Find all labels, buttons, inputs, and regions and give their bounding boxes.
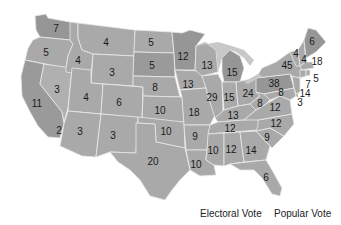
state-value-DE: 3: [297, 98, 303, 108]
state-NM[interactable]: [96, 114, 138, 157]
state-value-AR: 9: [192, 132, 198, 142]
state-value-MT: 4: [103, 38, 109, 48]
state-value-NV: 3: [54, 85, 60, 95]
state-value-RI: 5: [313, 74, 319, 84]
state-value-VT: 4: [293, 49, 299, 59]
state-value-ID: 4: [75, 56, 81, 66]
state-value-TX: 20: [147, 157, 158, 167]
state-value-ME: 6: [309, 37, 315, 47]
tab-popular-vote[interactable]: Popular Vote: [274, 208, 331, 219]
state-value-WV: 8: [257, 99, 263, 109]
state-value-IL: 29: [206, 93, 217, 103]
state-value-OH: 24: [242, 89, 253, 99]
map-shapes: [0, 0, 341, 205]
state-value-AL: 12: [225, 145, 236, 155]
state-value-MA: 18: [311, 57, 322, 67]
state-value-IN: 15: [223, 93, 234, 103]
state-value-GA: 14: [245, 146, 256, 156]
state-value-WI: 13: [201, 61, 212, 71]
state-value-SD: 5: [149, 61, 155, 71]
state-value-UT: 4: [83, 93, 89, 103]
state-value-NY: 45: [281, 61, 292, 71]
state-value-WA: 7: [53, 24, 59, 34]
state-value-NH: 4: [301, 55, 307, 65]
us-state-map: 7511344343263558101020121318910132915152…: [0, 0, 341, 205]
state-value-FL: 6: [263, 173, 269, 183]
state-value-MI: 15: [226, 68, 237, 78]
state-FL[interactable]: [230, 160, 282, 196]
state-value-NC: 12: [270, 119, 281, 129]
state-value-IA: 13: [182, 80, 193, 90]
state-value-MO: 18: [188, 108, 199, 118]
state-value-VA: 12: [269, 103, 280, 113]
state-value-CO: 6: [116, 98, 122, 108]
state-value-NJ: 14: [299, 89, 310, 99]
state-value-CT: 7: [305, 80, 311, 90]
state-value-MN: 12: [177, 52, 188, 62]
state-value-WY: 3: [109, 68, 115, 78]
state-value-KS: 10: [154, 106, 165, 116]
state-value-TN: 12: [224, 124, 235, 134]
state-value-KY: 13: [227, 111, 238, 121]
state-CT[interactable]: [300, 70, 306, 78]
state-value-MS: 10: [207, 146, 218, 156]
state-value-LA: 10: [190, 160, 201, 170]
state-value-AZ: 3: [77, 127, 83, 137]
state-value-NM: 3: [110, 131, 116, 141]
state-value-CA: 11: [32, 99, 42, 109]
state-RI[interactable]: [306, 70, 310, 76]
state-value-OR: 5: [43, 48, 49, 58]
state-value-ND: 5: [148, 38, 154, 48]
state-value-HI: 2: [56, 126, 62, 136]
state-value-OK: 10: [160, 127, 171, 137]
state-value-NE: 8: [152, 83, 158, 93]
state-value-SC: 9: [264, 133, 270, 143]
state-value-MD: 8: [278, 88, 284, 98]
tab-electoral-vote[interactable]: Electoral Vote: [200, 208, 262, 219]
